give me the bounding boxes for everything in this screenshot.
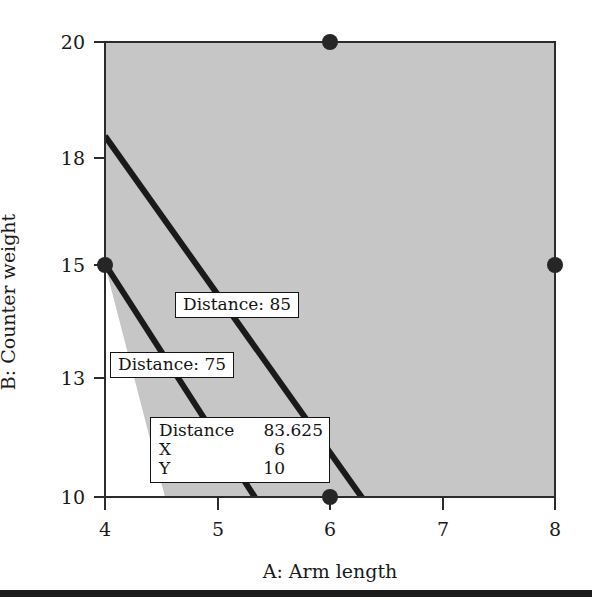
readout-y-value: 10 [263, 459, 323, 478]
x-tick-label-6: 6 [324, 520, 336, 539]
y-tick-label-13: 13 [40, 369, 85, 388]
readout-row-distance: Distance 83.625 [159, 421, 323, 440]
y-tick-label-18: 18 [40, 149, 85, 168]
readout-distance-key: Distance [159, 421, 234, 440]
design-point-8-15 [547, 257, 563, 273]
y-tick-label-20: 20 [40, 33, 85, 52]
readout-y-key: Y [159, 459, 170, 478]
readout-x-key: X [159, 440, 171, 459]
design-point-6-10 [322, 489, 338, 505]
y-axis-title: B: Counter weight [0, 214, 18, 390]
readout-row-x: X 6 [159, 440, 323, 459]
readout-box: Distance 83.625 X 6 Y 10 [150, 417, 330, 483]
contour-label-75: Distance: 75 [110, 352, 234, 378]
y-tick-label-15: 15 [40, 256, 85, 275]
x-tick-label-8: 8 [549, 520, 561, 539]
design-point-4-15 [97, 257, 113, 273]
chart-container: 20 18 15 13 10 4 5 6 7 8 B: Counter weig… [0, 0, 592, 604]
bottom-rule [0, 590, 592, 597]
y-tick-label-10: 10 [40, 488, 85, 507]
readout-distance-value: 83.625 [264, 421, 323, 440]
readout-row-y: Y 10 [159, 459, 323, 478]
readout-x-value: 6 [274, 440, 323, 459]
x-tick-label-7: 7 [437, 520, 449, 539]
design-point-6-20 [322, 34, 338, 50]
contour-label-85: Distance: 85 [175, 292, 299, 318]
x-axis-title: A: Arm length [263, 562, 398, 581]
x-tick-label-4: 4 [99, 520, 111, 539]
x-tick-label-5: 5 [212, 520, 224, 539]
